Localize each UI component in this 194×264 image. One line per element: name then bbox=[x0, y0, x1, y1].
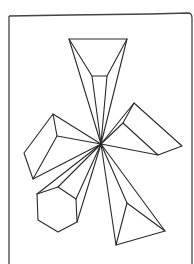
sketch-canvas bbox=[0, 0, 194, 264]
shapes-group bbox=[24, 39, 182, 245]
ray-line bbox=[69, 39, 101, 144]
top-trapezoid-prism bbox=[69, 39, 127, 144]
top-trapezoid-prism-outline bbox=[69, 39, 127, 76]
ray-line bbox=[37, 144, 101, 194]
bottom-triangle-pyramid-outline bbox=[116, 203, 165, 245]
ray-line bbox=[76, 144, 101, 199]
bottom-triangle-pyramid bbox=[101, 144, 165, 245]
ray-line bbox=[101, 123, 123, 144]
ray-line bbox=[92, 76, 101, 144]
right-wedge-prism-outline bbox=[123, 103, 182, 155]
ray-line bbox=[101, 144, 158, 155]
right-wedge-prism bbox=[101, 103, 182, 155]
hexagonal-prism bbox=[37, 144, 101, 232]
ray-line bbox=[101, 144, 116, 245]
ray-line bbox=[101, 144, 165, 231]
hexagonal-prism-outline bbox=[37, 187, 77, 232]
